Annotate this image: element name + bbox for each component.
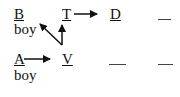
blank-row2-2 xyxy=(158,64,173,65)
blank-row2-1 xyxy=(109,64,126,65)
node-t: T xyxy=(62,7,71,22)
blank-row1 xyxy=(158,19,171,20)
node-v: V xyxy=(62,52,73,67)
node-d: D xyxy=(110,7,121,22)
arrow-junction-to-boy xyxy=(40,24,62,45)
node-b: B xyxy=(14,7,24,22)
node-b-sublabel: boy xyxy=(14,22,37,37)
node-a-sublabel: boy xyxy=(14,68,37,83)
node-a: A xyxy=(14,52,25,67)
